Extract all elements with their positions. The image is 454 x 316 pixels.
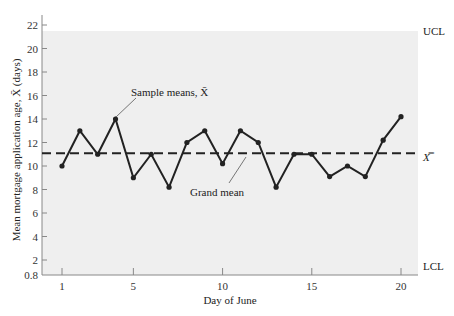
y-tick-label: 14 bbox=[27, 113, 39, 125]
y-tick-label: 18 bbox=[27, 66, 39, 78]
y-axis-title: Mean mortgage application age, X̄ (days) bbox=[10, 58, 23, 241]
data-point bbox=[149, 152, 154, 157]
x-tick-label: 15 bbox=[306, 280, 318, 292]
y-tick-label: 8 bbox=[33, 184, 39, 196]
x-tick-label: 1 bbox=[59, 280, 65, 292]
x-tick-label: 20 bbox=[396, 280, 408, 292]
lcl-label: LCL bbox=[423, 260, 444, 272]
control-chart: 0.8246810121416182022 15101520 Sample me… bbox=[0, 0, 454, 316]
data-point bbox=[202, 128, 207, 133]
data-point bbox=[398, 114, 403, 119]
grand-mean-symbol: X̿ bbox=[422, 151, 435, 163]
y-tick-label: 16 bbox=[27, 90, 39, 102]
data-point bbox=[166, 185, 171, 190]
data-point bbox=[95, 152, 100, 157]
data-point bbox=[220, 161, 225, 166]
grand-mean-label: Grand mean bbox=[190, 186, 245, 198]
sample-means-label: Sample means, X̄ bbox=[131, 86, 208, 98]
data-point bbox=[363, 174, 368, 179]
data-point bbox=[309, 152, 314, 157]
data-point bbox=[381, 138, 386, 143]
y-tick-label: 2 bbox=[33, 254, 39, 266]
data-point bbox=[77, 128, 82, 133]
x-tick-label: 10 bbox=[217, 280, 229, 292]
y-tick-label: 12 bbox=[27, 137, 38, 149]
data-point bbox=[184, 140, 189, 145]
y-tick-label: 10 bbox=[27, 160, 39, 172]
data-point bbox=[291, 152, 296, 157]
data-point bbox=[113, 116, 118, 121]
data-point bbox=[59, 163, 64, 168]
x-axis-title: Day of June bbox=[203, 294, 256, 306]
y-tick-label: 6 bbox=[33, 207, 39, 219]
data-point bbox=[131, 175, 136, 180]
data-point bbox=[256, 140, 261, 145]
ucl-label: UCL bbox=[423, 25, 445, 37]
y-tick-label: 20 bbox=[27, 43, 39, 55]
data-point bbox=[274, 185, 279, 190]
data-point bbox=[327, 174, 332, 179]
data-point bbox=[238, 128, 243, 133]
x-tick-label: 5 bbox=[131, 280, 137, 292]
data-point bbox=[345, 163, 350, 168]
y-tick-label: 4 bbox=[33, 231, 39, 243]
y-tick-label: 0.8 bbox=[24, 269, 38, 281]
y-tick-label: 22 bbox=[27, 19, 38, 31]
